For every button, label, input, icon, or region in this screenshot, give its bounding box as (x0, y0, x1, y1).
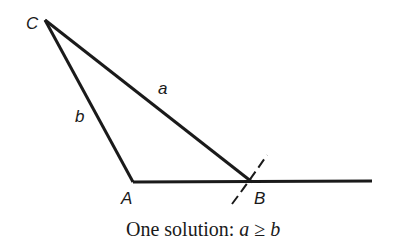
baseline-ray (133, 181, 372, 182)
side-label-b: b (75, 108, 84, 125)
vertex-label-b: B (254, 190, 265, 207)
side-label-a: a (158, 80, 167, 97)
side-a (45, 20, 252, 182)
side-b (45, 20, 133, 182)
caption-math-b: b (270, 218, 280, 240)
caption-op: ≥ (254, 218, 265, 240)
vertex-label-a: A (121, 190, 132, 207)
caption: One solution: a ≥ b (126, 218, 280, 241)
caption-text: One solution: (126, 218, 239, 240)
caption-math-a: a (239, 218, 249, 240)
triangle-diagram (0, 0, 394, 249)
vertex-label-c: C (26, 15, 38, 32)
